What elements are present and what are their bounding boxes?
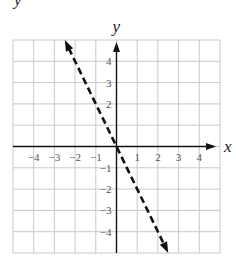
x-tick-label: 3 [176,151,182,163]
x-axis-arrow-icon [206,143,216,150]
y-tick-label: −2 [100,183,112,195]
y-tick-label: 4 [106,55,112,67]
x-tick-label: −1 [90,151,102,163]
x-tick-label: 4 [197,151,203,163]
y-tick-label: −1 [100,162,112,174]
x-axis-label: x [223,137,232,156]
cropped-label-fragment: y [12,0,22,9]
axes [13,42,216,253]
x-tick-label: −2 [69,151,81,163]
x-tick-label: 1 [134,151,140,163]
y-tick-label: 3 [106,77,112,89]
x-tick-label: 2 [155,151,161,163]
coordinate-plane: y −4−3−2−11234432−1−2−3−4 x y [0,0,236,259]
x-tick-label: −3 [49,151,61,163]
x-tick-label: −4 [28,151,40,163]
y-tick-label: −4 [100,226,112,238]
y-axis-label: y [111,17,121,36]
line-arrow-start-icon [65,40,73,52]
line-arrow-end-icon [160,241,168,253]
y-axis-arrow-icon [113,42,120,52]
y-tick-label: 2 [106,98,112,110]
y-tick-label: −3 [100,204,112,216]
